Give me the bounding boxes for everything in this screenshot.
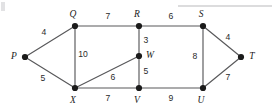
edge-s-t — [203, 26, 241, 57]
graph-node-u — [200, 85, 206, 91]
node-layer — [22, 23, 244, 91]
graph-node-r — [136, 23, 142, 29]
node-label-u: U — [198, 95, 206, 105]
edge-weight-r-s: 6 — [169, 11, 174, 21]
edge-weight-x-v: 7 — [106, 93, 111, 103]
edge-p-x — [25, 57, 75, 88]
node-label-v: V — [134, 95, 141, 105]
node-label-p: P — [10, 51, 17, 61]
node-label-r: R — [133, 9, 140, 19]
edge-weight-p-q: 4 — [42, 27, 47, 37]
edge-layer — [25, 26, 241, 88]
graph-canvas: 45710634875679 PQRSTUVWX — [0, 0, 275, 110]
graph-node-s — [200, 23, 206, 29]
node-label-x: X — [69, 95, 77, 105]
edge-weight-s-u: 8 — [193, 51, 198, 61]
graph-node-p — [22, 54, 28, 60]
node-label-w: W — [146, 50, 155, 60]
corner-smudge — [1, 2, 5, 11]
edge-weight-r-w: 3 — [144, 35, 149, 45]
edge-weight-v-u: 9 — [169, 93, 174, 103]
node-label-t: T — [249, 51, 255, 61]
graph-node-x — [72, 85, 78, 91]
edge-weight-w-v: 5 — [144, 66, 149, 76]
edge-weight-s-t: 4 — [226, 32, 231, 42]
edge-weight-x-w: 6 — [111, 72, 116, 82]
edge-weight-q-r: 7 — [106, 11, 111, 21]
node-label-layer: PQRSTUVWX — [10, 9, 255, 105]
graph-node-w — [136, 53, 142, 59]
node-label-q: Q — [70, 9, 77, 19]
graph-node-t — [238, 54, 244, 60]
edge-weight-p-x: 5 — [41, 73, 46, 83]
edge-p-q — [25, 26, 75, 57]
edge-weight-t-u: 7 — [226, 72, 231, 82]
edge-weight-q-x: 10 — [78, 49, 88, 59]
edge-x-w — [75, 56, 139, 88]
edge-t-u — [203, 57, 241, 88]
graph-node-v — [136, 85, 142, 91]
graph-node-q — [72, 23, 78, 29]
node-label-s: S — [199, 9, 204, 19]
weighted-graph-figure: 45710634875679 PQRSTUVWX — [0, 0, 275, 110]
